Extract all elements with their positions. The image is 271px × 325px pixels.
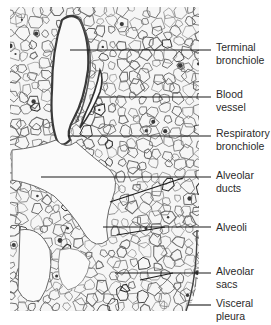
tissue-region	[5, 1, 211, 318]
label-visceral-pleura: Visceral pleura	[216, 297, 253, 323]
label-alveolar-sacs: Alveolar sacs	[216, 265, 254, 291]
label-blood-vessel: Blood vessel	[216, 88, 246, 114]
label-alveoli: Alveoli	[216, 221, 247, 234]
label-alveolar-ducts: Alveolar ducts	[216, 169, 254, 195]
lung-histology-figure: Terminal bronchiole Blood vessel Respira…	[0, 0, 271, 325]
label-terminal-bronchiole: Terminal bronchiole	[216, 41, 264, 67]
label-respiratory-bronchiole: Respiratory bronchiole	[216, 127, 270, 153]
